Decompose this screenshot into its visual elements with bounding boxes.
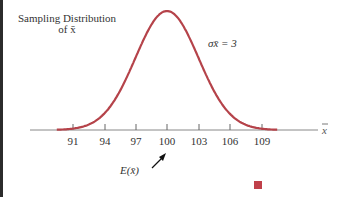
tick-label: 94 [100, 135, 111, 147]
sigma-annotation: σx̄ = 3 [208, 37, 237, 49]
tick-label: 91 [68, 135, 79, 147]
tick-label: 103 [191, 135, 208, 147]
tick-label: 106 [222, 135, 239, 147]
chart-title: Sampling Distribution of x̄ [18, 13, 116, 35]
tick-label: 100 [159, 135, 176, 147]
tick-label: 97 [131, 135, 142, 147]
mean-annotation: E(x̄) [120, 164, 139, 176]
tick-label: 109 [254, 135, 271, 147]
x-ticks [73, 124, 262, 130]
svg-text:x: x [321, 124, 327, 136]
end-mark-icon [254, 181, 262, 189]
